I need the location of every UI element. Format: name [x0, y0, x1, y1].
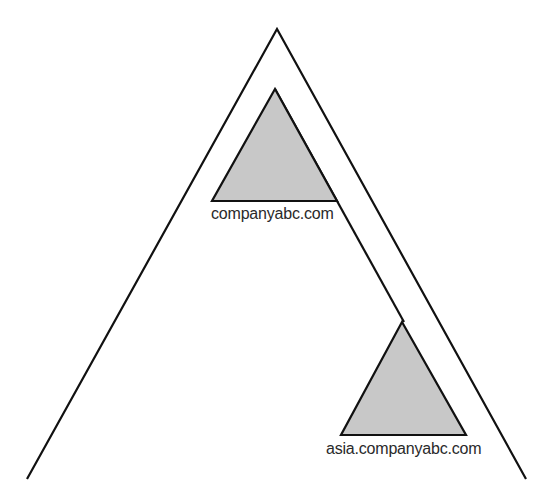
- child-domain-label: asia.companyabc.com: [326, 440, 481, 458]
- root-domain-label: companyabc.com: [211, 205, 334, 223]
- domain-tree-diagram: [0, 0, 555, 502]
